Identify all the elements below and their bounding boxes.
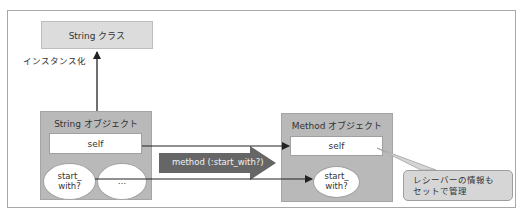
receiver-info-callout: レシーバーの情報も セットで管理 — [403, 170, 513, 201]
callout-pointer — [377, 148, 436, 170]
method-call-label: method (:start_with?) — [172, 157, 264, 167]
